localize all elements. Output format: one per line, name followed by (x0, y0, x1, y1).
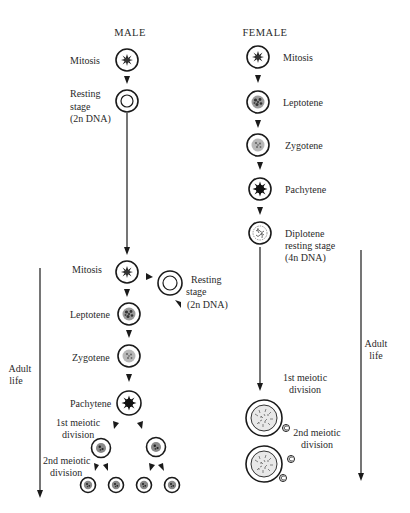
male-pachytene-label: Pachytene (70, 398, 112, 409)
female-first-division-label-1: 1st meiotic (283, 372, 328, 383)
female-leptotene-label: Leptotene (283, 97, 324, 108)
male-adult-life-label-2: life (9, 375, 23, 386)
arrow-head-icon (255, 75, 261, 83)
male-first-division-label-2: division (62, 429, 94, 440)
male-adult-life-label-1: Adult (9, 363, 32, 374)
arrow-head-icon (94, 463, 99, 471)
female-leptotene-cell (247, 91, 269, 113)
male-first-division-label-1: 1st meiotic (56, 417, 101, 428)
arrow-head-icon (124, 76, 130, 84)
female-oocyte-primary (246, 400, 282, 436)
female-diplotene-label-3: (4n DNA) (285, 252, 326, 264)
arrow-head-icon (37, 490, 43, 498)
female-diplotene-label-1: Diplotene (285, 228, 325, 239)
male-resting-cell (116, 90, 138, 112)
male-second-division-label-1: 2nd meiotic (43, 455, 91, 466)
female-adult-life-label-2: life (369, 350, 383, 361)
female-polar-body-3 (280, 475, 287, 482)
male-leptotene-cell (118, 303, 140, 325)
arrow-head-icon (103, 463, 108, 471)
male-secondary-cell-left (92, 439, 111, 458)
male-secondary-cell-right (147, 438, 166, 457)
arrow-head-icon (149, 463, 155, 471)
female-diplotene-cell (249, 222, 271, 244)
female-first-division-label-2: division (289, 384, 321, 395)
male-second-division-label-2: division (50, 467, 82, 478)
male-adult-resting-label-2: stage (186, 286, 207, 297)
male-fetal-resting-label-3: (2n DNA) (70, 113, 111, 125)
arrow-head-icon (137, 421, 143, 429)
male-leptotene-label: Leptotene (70, 309, 111, 320)
female-second-division-label-1: 2nd meiotic (293, 427, 341, 438)
male-pachytene-cell (117, 391, 141, 415)
male-fetal-mitosis-label: Mitosis (70, 55, 100, 66)
arrow-head-icon (126, 330, 132, 338)
arrow-head-icon (113, 421, 119, 429)
arrow-head-icon (358, 473, 364, 481)
male-spermatid-4 (165, 478, 180, 493)
arrow-head-icon (257, 162, 263, 170)
male-header: MALE (114, 27, 146, 38)
male-zygotene-label: Zygotene (72, 352, 110, 363)
arrow-head-icon (175, 300, 181, 308)
female-adult-life-label-1: Adult (365, 338, 388, 349)
male-adult-resting-label-3: (2n DNA) (187, 299, 228, 311)
female-pachytene-cell (249, 178, 271, 200)
arrow-head-icon (124, 289, 130, 297)
arrow-head-icon (257, 383, 263, 391)
female-zygotene-cell (247, 134, 269, 156)
male-adult-resting-label-1: Resting (191, 274, 222, 285)
male-fetal-resting-label-1: Resting (70, 88, 101, 99)
male-fetal-mitosis-cell (116, 49, 138, 71)
female-diplotene-label-2: resting stage (285, 240, 336, 251)
arrow-head-icon (255, 120, 261, 128)
arrow-head-icon (146, 273, 153, 280)
gametogenesis-diagram: MALE Mitosis Resting stage (2n DNA) Adul… (0, 0, 410, 513)
arrow-head-icon (158, 463, 164, 471)
male-adult-mitosis-label: Mitosis (72, 264, 102, 275)
male-spermatid-1 (81, 478, 96, 493)
male-spermatid-2 (109, 478, 124, 493)
female-pachytene-label: Pachytene (285, 184, 327, 195)
female-polar-body-1 (283, 425, 290, 432)
female-oocyte-secondary (246, 446, 282, 482)
male-zygotene-cell (118, 345, 140, 367)
male-adult-resting-cell (158, 271, 182, 295)
male-adult-mitosis-cell (116, 261, 138, 283)
female-second-division-label-2: division (301, 439, 333, 450)
male-fetal-resting-label-2: stage (70, 101, 91, 112)
male-spermatid-3 (137, 478, 152, 493)
arrow-head-icon (126, 374, 132, 382)
female-mitosis-label: Mitosis (283, 52, 313, 63)
arrow-head-icon (124, 247, 130, 255)
female-header: FEMALE (243, 27, 288, 38)
female-mitosis-cell (247, 46, 269, 68)
female-zygotene-label: Zygotene (285, 140, 323, 151)
female-polar-body-2 (288, 456, 295, 463)
arrow-head-icon (257, 207, 263, 215)
